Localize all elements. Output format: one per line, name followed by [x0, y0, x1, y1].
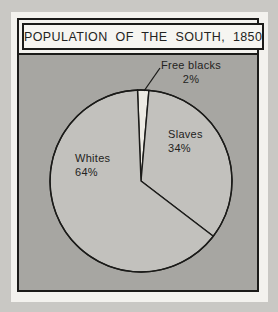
page-background: POPULATION OF THE SOUTH, 1850 Free black… — [0, 0, 278, 312]
label-free-blacks: Free blacks 2% — [136, 58, 246, 86]
slice-label-slaves: Slaves — [168, 127, 203, 141]
figure-title-box: POPULATION OF THE SOUTH, 1850 — [22, 23, 264, 50]
slice-pct-free-blacks: 2% — [136, 72, 246, 86]
pie-chart — [19, 55, 257, 290]
slice-label-whites: Whites — [75, 151, 110, 165]
title-strip: POPULATION OF THE SOUTH, 1850 — [19, 20, 257, 53]
slice-pct-whites: 64% — [75, 165, 110, 179]
slice-pct-slaves: 34% — [168, 141, 203, 155]
figure-title: POPULATION OF THE SOUTH, 1850 — [24, 30, 262, 44]
figure-panel: POPULATION OF THE SOUTH, 1850 Free black… — [17, 18, 259, 292]
chart-area: Free blacks 2% Slaves 34% Whites 64% — [19, 53, 257, 290]
figure-mat: POPULATION OF THE SOUTH, 1850 Free black… — [11, 12, 268, 302]
label-whites: Whites 64% — [75, 151, 110, 179]
label-slaves: Slaves 34% — [168, 127, 203, 155]
slice-label-free-blacks: Free blacks — [136, 58, 246, 72]
